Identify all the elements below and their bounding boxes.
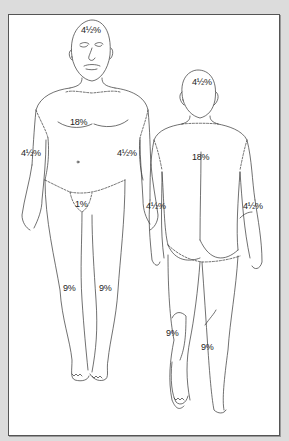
front-right-arm-label: 4½%	[21, 148, 41, 158]
front-left-arm-label: 4½%	[117, 148, 137, 158]
front-torso-label: 18%	[70, 117, 87, 127]
back-right-leg-label: 9%	[201, 342, 214, 352]
back-head-label: 4½%	[192, 77, 212, 87]
front-groin-label: 1%	[75, 199, 88, 209]
back-left-leg-label: 9%	[166, 328, 179, 338]
back-right-arm-label: 4½%	[243, 201, 263, 211]
body-figures-illustration	[0, 0, 289, 441]
front-figure	[22, 20, 158, 381]
front-head-label: 4½%	[81, 25, 101, 35]
back-torso-label: 18%	[192, 152, 209, 162]
front-right-leg-label: 9%	[63, 283, 76, 293]
back-figure	[149, 70, 262, 413]
back-left-arm-label: 4½%	[146, 201, 166, 211]
front-left-leg-label: 9%	[99, 283, 112, 293]
